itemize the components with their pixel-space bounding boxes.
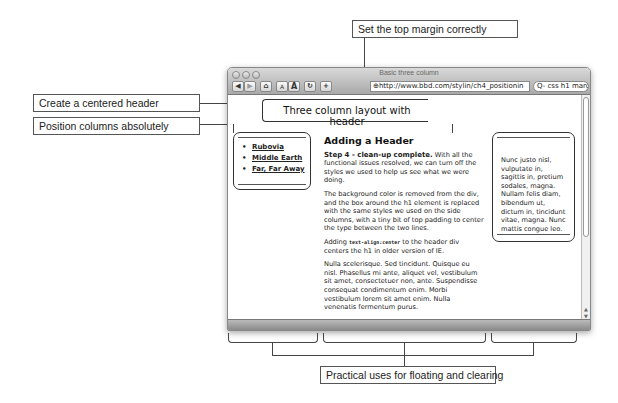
home-button[interactable]: ⌂: [260, 81, 272, 92]
main-paragraph-3: Adding text-align:center to the header d…: [324, 238, 484, 255]
bracket-right-column: [491, 333, 577, 343]
step-lead: Step 4 - clean-up complete.: [324, 151, 433, 159]
text-larger-button[interactable]: A: [288, 81, 300, 92]
right-column-top-rule: [497, 137, 570, 138]
main-paragraph-1: Step 4 - clean-up complete. With all the…: [324, 151, 484, 185]
plus-icon: +: [323, 82, 329, 90]
bracket-left-column: [228, 333, 318, 343]
url-text: http://www.bbd.com/stylin/ch4_positionin: [379, 82, 524, 90]
right-column-text: Nunc justo nisl, vulputate in, sagittis …: [501, 156, 568, 233]
p3-pre: Adding: [324, 238, 349, 246]
left-column-top-rule: [238, 137, 306, 138]
page-header: Three column layout with header: [266, 99, 428, 122]
nav-list: Rubovia Middle Earth Far, Far Away: [242, 142, 305, 175]
left-column: Rubovia Middle Earth Far, Far Away: [233, 132, 311, 190]
page-viewport: Three column layout with header Rubovia …: [228, 95, 582, 321]
back-button[interactable]: ◀: [232, 81, 244, 92]
left-column-bottom-rule: [238, 184, 306, 185]
main-paragraph-2: The background color is removed from the…: [324, 190, 484, 233]
url-input[interactable]: ⊕http://www.bbd.com/stylin/ch4_positioni…: [370, 81, 530, 92]
reload-button[interactable]: ↻: [304, 81, 316, 92]
callout-floating-clearing: Practical uses for floating and clearing: [320, 366, 496, 384]
bracket-main-column: [323, 333, 486, 343]
callout-tick-right-column: [452, 124, 453, 133]
status-bar: [228, 319, 590, 330]
vertical-scrollbar[interactable]: ▲ ▼: [581, 95, 590, 321]
browser-window: Basic three column ◀ ▶ ⌂ A A ↻ + ⊕http:/…: [227, 67, 591, 331]
callout-tick-left-column: [233, 124, 234, 133]
bracket-tick-right: [533, 343, 534, 355]
forward-button[interactable]: ▶: [244, 81, 256, 92]
callout-position-columns: Position columns absolutely: [33, 117, 200, 135]
main-content: Adding a Header Step 4 - clean-up comple…: [324, 137, 484, 317]
window-title: Basic three column: [228, 69, 590, 76]
text-larger-icon: A: [291, 82, 297, 91]
right-column-bottom-rule: [497, 234, 570, 235]
text-smaller-button[interactable]: A: [276, 81, 288, 92]
nav-item: Rubovia: [242, 142, 305, 153]
page-title: Three column layout with header: [266, 105, 428, 127]
bracket-connector: [272, 355, 534, 356]
reload-icon: ↻: [307, 82, 313, 90]
callout-centered-header: Create a centered header: [33, 94, 200, 112]
back-arrow-icon: ◀: [235, 82, 240, 90]
text-smaller-icon: A: [280, 83, 284, 90]
code-snippet: text-align:center: [349, 239, 400, 245]
right-column: Nunc justo nisl, vulputate in, sagittis …: [492, 132, 575, 242]
callout-top-margin: Set the top margin correctly: [352, 20, 518, 38]
bracket-tick-left: [272, 343, 273, 355]
main-heading: Adding a Header: [324, 137, 484, 146]
home-icon: ⌂: [263, 82, 268, 90]
add-bookmark-button[interactable]: +: [320, 81, 332, 92]
bracket-stem: [404, 343, 405, 367]
scroll-thumb[interactable]: [583, 97, 589, 237]
forward-arrow-icon: ▶: [247, 82, 252, 90]
nav-item: Far, Far Away: [242, 164, 305, 175]
nav-link-far-far-away[interactable]: Far, Far Away: [252, 165, 305, 173]
nav-item: Middle Earth: [242, 153, 305, 164]
title-bar: Basic three column ◀ ▶ ⌂ A A ↻ + ⊕http:/…: [228, 68, 590, 95]
main-paragraph-4: Nulla scelerisque. Sed tincidunt. Quisqu…: [324, 260, 484, 312]
nav-link-middle-earth[interactable]: Middle Earth: [252, 154, 302, 162]
search-input[interactable]: Q- css h1 margin m: [533, 81, 589, 92]
nav-link-rubovia[interactable]: Rubovia: [252, 143, 284, 151]
scroll-up-arrow-icon[interactable]: ▲: [583, 306, 589, 312]
